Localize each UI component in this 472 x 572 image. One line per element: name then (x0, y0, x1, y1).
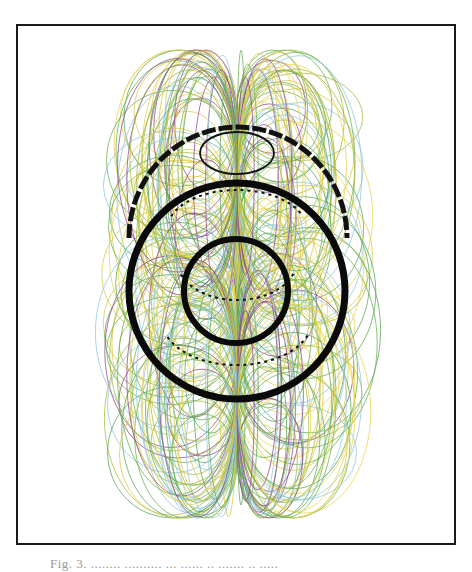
field-loops (95, 50, 380, 518)
figure-caption: Fig. 3. ........ .......... ... ...... .… (50, 556, 450, 572)
